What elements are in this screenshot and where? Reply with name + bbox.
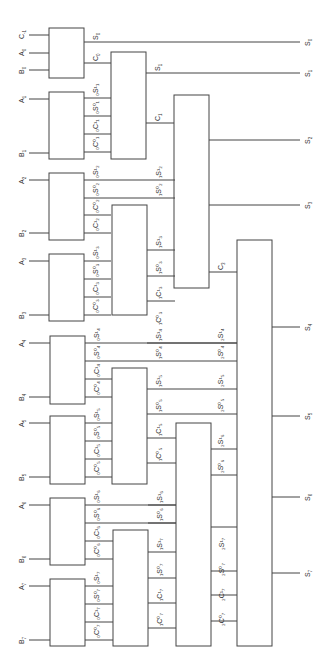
bit7-sum0-label: ₀S⁰₇	[93, 588, 100, 602]
bit6-carry0-label: ₀C⁰₆	[93, 543, 100, 557]
input-b4-label: B4	[18, 393, 27, 401]
g67-carry-0-label: ₁C⁰₇	[156, 613, 163, 626]
bit7-carry0-label: ₀C⁰₇	[93, 624, 100, 638]
stage1-signal-labels: S1 C1 ₁S¹₂ ₁S⁰₂ ₁S¹₃ ₁S⁰₃ ₁C¹₃ ₁C⁰₃ ₁S¹₄…	[154, 63, 163, 626]
bit1-carry0-label: ₀C⁰₁	[92, 136, 99, 150]
s0-intermediate-label: S0	[92, 32, 101, 40]
g47-carry-0-label: ₂C⁰₇	[218, 612, 225, 626]
bit3-sum1-label: ₀S¹₃	[92, 246, 99, 259]
input-b1-label: B1	[18, 149, 27, 157]
g23-carry-0-label: ₁C⁰₃	[155, 312, 162, 325]
input-b6-label: B6	[18, 555, 27, 563]
g47-sum4-1-label: ₂S¹₄	[217, 328, 224, 341]
mux-stage1-bits2-3	[112, 205, 147, 315]
g23-sum3-1-label: ₁S¹₃	[155, 236, 162, 248]
bit2-adder-block	[49, 173, 84, 240]
g67-sum6-1-label: ₁S¹₆	[156, 491, 163, 503]
input-a7-label: A7	[18, 582, 27, 590]
g45-sum4-0-label: ₁S⁰₄	[155, 346, 162, 359]
bit5-carry1-label: ₀C¹₅	[93, 444, 100, 457]
bit6-sum0-label: ₀S⁰₆	[93, 507, 100, 521]
bit4-carry0-label: ₀C⁰₄	[93, 381, 100, 395]
g23-sum2-1-label: ₁S¹₂	[155, 166, 162, 178]
g45-sum4-1-label: ₁S¹₄	[155, 329, 162, 341]
g47-sum6-0-label: ₂S⁰₆	[217, 460, 224, 473]
bit3-sum0-label: ₀S⁰₃	[92, 263, 99, 277]
bit5-sum0-label: ₀S⁰₅	[93, 425, 100, 439]
output-s7-label: S7	[304, 569, 313, 577]
bit1-sum1-label: ₀S¹₁	[92, 83, 99, 96]
g23-sum3-0-label: ₁S⁰₃	[155, 261, 162, 274]
input-a1-label: A1	[18, 95, 27, 103]
g47-sum5-0-label: ₂S⁰₅	[217, 399, 224, 412]
input-a2-label: A2	[18, 176, 27, 184]
bit6-sum1-label: ₀S¹₆	[93, 490, 100, 503]
bit2-carry1-label: ₀C¹₂	[92, 218, 99, 231]
input-a6-label: A6	[18, 501, 27, 509]
bit2-sum1-label: ₀S¹₂	[92, 165, 99, 178]
bit7-carry1-label: ₀C¹₇	[93, 607, 100, 620]
bit7-sum1-label: ₀S¹₇	[93, 571, 100, 584]
mux-stage1-bits4-5	[112, 368, 147, 484]
g23-sum2-0-label: ₁S⁰₂	[155, 183, 162, 196]
input-a4-label: A4	[18, 339, 27, 347]
input-a3-label: A3	[18, 257, 27, 265]
g47-sum7-0-label: ₂S⁰₇	[218, 563, 225, 576]
input-b2-label: B2	[18, 229, 27, 237]
bit0-adder-block	[49, 28, 84, 78]
input-b5-label: B5	[18, 473, 27, 481]
g45-sum5-0-label: ₁S⁰₅	[155, 399, 162, 412]
g67-sum7-1-label: ₁S¹₇	[156, 538, 163, 550]
bit5-carry0-label: ₀C⁰₅	[93, 461, 100, 475]
bit1-adder-block	[49, 92, 84, 159]
mux-stage1-bits0-1	[111, 52, 146, 159]
input-a0-label: A0	[18, 48, 27, 56]
g47-sum4-0-label: ₂S⁰₄	[217, 346, 224, 359]
bit4-sum0-label: ₀S⁰₄	[93, 345, 100, 359]
input-b7-label: B7	[18, 636, 27, 644]
c-in-label: C-1	[18, 29, 27, 39]
output-labels: S0 S1 S2 S3 S4 S5 S6 S7	[304, 38, 313, 577]
bit5-sum1-label: ₀S¹₅	[93, 408, 100, 421]
bit3-carry0-label: ₀C⁰₃	[92, 299, 99, 313]
input-labels: C-1 A0 B0 A1 B1 A2 B2 A3 B3 A4 B4 A5 B5 …	[18, 29, 27, 644]
output-s1-label: S1	[304, 69, 313, 77]
output-s0-label: S0	[304, 38, 313, 46]
output-s2-label: S2	[304, 136, 313, 144]
bit4-sum1-label: ₀S¹₄	[93, 328, 100, 341]
output-s6-label: S6	[304, 493, 313, 501]
output-s3-label: S3	[304, 201, 313, 209]
c1-label: C1	[154, 113, 163, 121]
bit3-adder-block	[49, 254, 84, 321]
g23-carry-1-label: ₁C¹₃	[155, 286, 162, 299]
g67-sum7-0-label: ₁S⁰₇	[156, 563, 163, 576]
bit2-carry0-label: ₀C⁰₂	[92, 199, 99, 213]
input-b3-label: B3	[18, 311, 27, 319]
mux-stage2-bits4-7	[176, 423, 211, 646]
mux-stage3-bits4-7	[237, 240, 272, 646]
c0-label: C0	[92, 53, 101, 61]
g47-sum5-1-label: ₂S¹₅	[217, 374, 224, 387]
bit4-adder-block	[50, 336, 85, 404]
stage0-signal-labels: S0 C0 ₀S¹₁ ₀S⁰₁ ₀C¹₁ ₀C⁰₁ ₀S¹₂ ₀S⁰₂ ₀C⁰₂…	[92, 32, 101, 638]
g45-carry-0-label: ₁C⁰₅	[155, 448, 162, 461]
bit7-adder-block	[50, 579, 85, 646]
stage2-signal-labels: C3 ₂S¹₄ ₂S⁰₄ ₂S¹₅ ₂S⁰₅ ₂S¹₆ ₂S⁰₆ ₂S¹₇ ₂S…	[217, 262, 226, 626]
g47-sum6-1-label: ₂S¹₆	[217, 434, 224, 447]
g67-sum6-0-label: ₁S⁰₆	[156, 508, 163, 521]
output-s4-label: S4	[304, 323, 313, 331]
mux-stage1-bits6-7	[113, 530, 148, 646]
bit1-sum0-label: ₀S⁰₁	[92, 100, 99, 114]
bit6-carry1-label: ₀C¹₆	[93, 526, 100, 539]
input-a5-label: A5	[18, 419, 27, 427]
input-b0-label: B0	[18, 66, 27, 74]
g45-sum5-1-label: ₁S¹₅	[155, 375, 162, 387]
g47-carry-1-label: ₂C¹₇	[218, 588, 225, 601]
bit5-adder-block	[50, 416, 85, 484]
bit1-carry1-label: ₀C¹₁	[92, 119, 99, 132]
output-s5-label: S5	[304, 412, 313, 420]
g67-carry-1-label: ₁C¹₇	[156, 588, 163, 601]
s1-intermediate-label: S1	[154, 63, 163, 71]
bit4-carry1-label: ₀C¹₄	[93, 364, 100, 377]
g47-sum7-1-label: ₂S¹₇	[218, 537, 225, 550]
